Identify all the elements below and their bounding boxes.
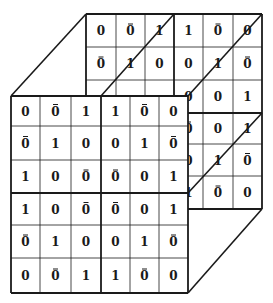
front-cell: 1: [82, 269, 90, 283]
front-cell: 0: [111, 235, 119, 249]
front-cell: 0: [21, 235, 29, 249]
front-cell: 0: [169, 137, 177, 151]
front-cell: 1: [111, 269, 119, 283]
back-cell: 0: [126, 24, 134, 38]
front-cell: 0: [21, 105, 29, 119]
front-cell: 0: [51, 269, 59, 283]
back-cell: 0: [214, 90, 222, 104]
front-cell: 0: [82, 137, 90, 151]
front-cell: 0: [51, 170, 59, 184]
front-cell: 1: [111, 105, 119, 119]
front-cell: 1: [140, 137, 148, 151]
back-cell: 0: [214, 186, 222, 200]
front-cell: 0: [140, 203, 148, 217]
back-cell: 0: [214, 24, 222, 38]
back-cell: 1: [184, 24, 192, 38]
back-cell: 0: [97, 24, 105, 38]
front-cell: 0: [82, 170, 90, 184]
front-cell: 1: [169, 203, 177, 217]
back-cell: 0: [214, 122, 222, 136]
front-face-matrix: 001100010010100001100001010010001100: [11, 96, 188, 293]
front-cell: 0: [169, 105, 177, 119]
front-cell: 0: [169, 269, 177, 283]
front-cell: 0: [21, 269, 29, 283]
front-cell: 0: [82, 203, 90, 217]
cube-matrix-diagram: 001100010010001001010100 001100010010100…: [0, 0, 273, 303]
front-cell: 0: [21, 137, 29, 151]
back-cell: 0: [155, 57, 163, 71]
front-cell: 0: [140, 269, 148, 283]
back-cell: 1: [243, 90, 251, 104]
front-cell: 0: [51, 105, 59, 119]
front-cell: 0: [111, 170, 119, 184]
front-cell: 1: [21, 203, 29, 217]
depth-edge-line: [188, 209, 262, 293]
front-cell: 1: [169, 170, 177, 184]
front-cell: 1: [21, 170, 29, 184]
back-cell: 0: [243, 186, 251, 200]
front-cell: 1: [82, 105, 90, 119]
front-cell: 0: [82, 235, 90, 249]
front-cell: 1: [51, 137, 59, 151]
front-cell: 0: [140, 105, 148, 119]
front-cell: 1: [51, 235, 59, 249]
front-cell: 1: [140, 235, 148, 249]
front-cell: 0: [51, 203, 59, 217]
front-cell: 0: [111, 137, 119, 151]
front-cell: 0: [111, 203, 119, 217]
back-cell: 0: [97, 57, 105, 71]
back-cell: 0: [243, 154, 251, 168]
front-cell: 0: [140, 170, 148, 184]
front-cell: 0: [169, 235, 177, 249]
back-cell: 0: [243, 57, 251, 71]
back-cell: 0: [184, 57, 192, 71]
depth-edge-line: [11, 14, 86, 96]
